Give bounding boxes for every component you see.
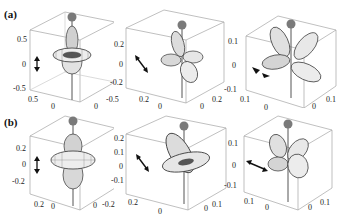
z-tick: -0.1 bbox=[224, 86, 237, 94]
x-tick: 0.1 bbox=[240, 96, 250, 104]
z-tick: 0.1 bbox=[114, 149, 124, 157]
z-tick: -0.1 bbox=[111, 177, 124, 185]
z-tick: 0.2 bbox=[16, 145, 26, 153]
z-tick: 0.5 bbox=[17, 36, 27, 44]
y-tick: 0.1 bbox=[320, 199, 330, 207]
plot-a2-canvas bbox=[114, 0, 228, 108]
z-tick: 0 bbox=[232, 62, 236, 70]
y-tick: 0.1 bbox=[212, 201, 222, 209]
plot-b1-canvas bbox=[0, 108, 114, 216]
polarization-arrow-icon bbox=[34, 156, 40, 174]
x-tick: 0 bbox=[265, 204, 269, 212]
plot-b3: 0.1 0 -0.1 0.1 0 0 0.1 bbox=[228, 108, 342, 216]
x-tick: 0.5 bbox=[28, 96, 38, 104]
z-tick: -0.5 bbox=[13, 85, 26, 93]
z-tick: 0 bbox=[232, 162, 236, 170]
z-tick: -0.2 bbox=[12, 178, 25, 186]
plot-a3-canvas bbox=[228, 0, 342, 108]
x-tick: 0.2 bbox=[139, 96, 149, 104]
z-tick: -0.1 bbox=[224, 182, 237, 190]
z-tick: 0.2 bbox=[114, 41, 124, 49]
plot-a1: 0.5 0 -0.5 0.5 0 0 -0.5 bbox=[0, 0, 114, 108]
z-tick: 0.1 bbox=[228, 38, 238, 46]
x-tick: 0 bbox=[158, 208, 162, 216]
plot-a3: 0.1 0 -0.1 0.1 0 0 0.1 bbox=[228, 0, 342, 108]
polarization-arrow-icon bbox=[34, 56, 40, 72]
polarization-arrow-icon bbox=[136, 154, 149, 172]
z-tick: 0 bbox=[119, 61, 123, 69]
z-tick: 0 bbox=[22, 61, 26, 69]
polarization-arrow-icon bbox=[246, 160, 268, 172]
plot-a2: 0.2 0 -0.2 0.2 0 0 0.2 bbox=[114, 0, 228, 108]
z-tick: 0.2 bbox=[114, 135, 124, 143]
y-tick: 0 bbox=[204, 205, 208, 213]
x-tick: 0 bbox=[51, 203, 55, 211]
y-tick: 0.2 bbox=[212, 96, 222, 104]
z-tick: 0.1 bbox=[228, 140, 238, 148]
z-tick: 0 bbox=[119, 163, 123, 171]
polarization-arrow-icon bbox=[135, 55, 148, 73]
y-tick: 0.1 bbox=[326, 96, 336, 104]
x-tick: 0.1 bbox=[244, 198, 254, 206]
y-tick: 0 bbox=[308, 204, 312, 212]
x-tick: 0.2 bbox=[128, 199, 138, 207]
plot-b2: 0.2 0.1 0 -0.1 0.2 0 0 0.1 bbox=[114, 108, 228, 216]
y-tick: -0.2 bbox=[102, 201, 115, 209]
plot-b1: 0.2 0 -0.2 0.2 0 0 -0.2 bbox=[0, 108, 114, 216]
z-tick: 0 bbox=[22, 161, 26, 169]
y-tick: 0 bbox=[93, 202, 97, 210]
x-tick: 0.2 bbox=[34, 201, 44, 209]
z-tick: -0.2 bbox=[110, 79, 123, 87]
